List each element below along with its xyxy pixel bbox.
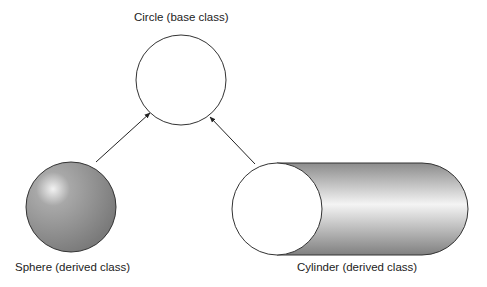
cylinder-shape xyxy=(232,163,468,255)
cylinder-label: Cylinder (derived class) xyxy=(297,261,417,273)
sphere-shape xyxy=(26,162,116,252)
sphere-label: Sphere (derived class) xyxy=(15,261,130,273)
base-class-label: Circle (base class) xyxy=(134,11,229,23)
inheritance-diagram xyxy=(0,0,487,287)
base-circle xyxy=(136,35,226,125)
cylinder-to-circle-arrow xyxy=(210,117,255,164)
sphere-to-circle-arrow xyxy=(96,113,150,162)
